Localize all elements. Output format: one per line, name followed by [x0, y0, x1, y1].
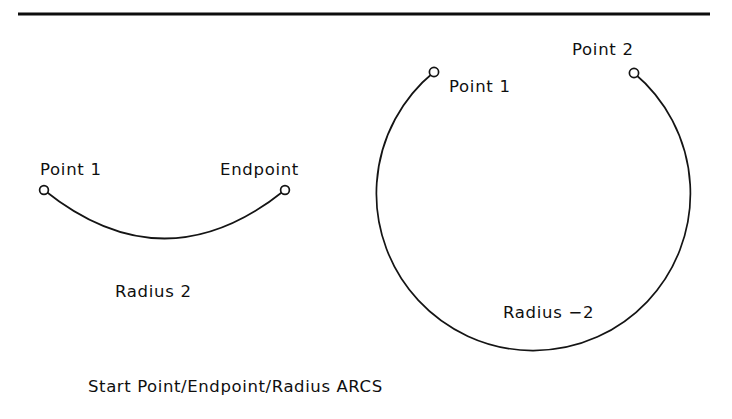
- left-arc-start-node-marker: [40, 186, 49, 195]
- right-arc-radius-label: Radius −2: [503, 303, 594, 322]
- right-arc-end-node-marker: [629, 68, 638, 77]
- left-arc-curve: [44, 190, 285, 239]
- diagram-page: Point 1 Endpoint Radius 2 Point 1 Point …: [0, 0, 732, 419]
- figure-caption: Start Point/Endpoint/Radius ARCS: [88, 377, 383, 396]
- right-arc-group: Point 1 Point 2 Radius −2: [376, 40, 690, 351]
- left-arc-end-node-marker: [281, 186, 290, 195]
- left-arc-start-label: Point 1: [40, 160, 102, 179]
- right-arc-start-node-marker: [429, 67, 438, 76]
- left-arc-group: Point 1 Endpoint Radius 2: [40, 160, 299, 301]
- left-arc-radius-label: Radius 2: [115, 282, 192, 301]
- arc-diagram-figure: Point 1 Endpoint Radius 2 Point 1 Point …: [0, 0, 732, 419]
- left-arc-end-label: Endpoint: [220, 160, 299, 179]
- right-arc-end-label: Point 2: [572, 40, 634, 59]
- right-arc-start-label: Point 1: [449, 77, 511, 96]
